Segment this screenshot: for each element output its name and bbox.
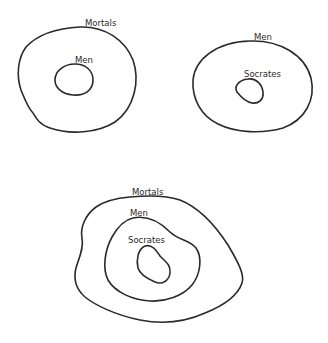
label-mortals: Mortals — [85, 18, 117, 28]
diagram-top-right: Men Socrates — [193, 32, 312, 132]
set-men-outline — [105, 217, 200, 301]
label-socrates: Socrates — [244, 69, 282, 79]
label-men: Men — [75, 55, 93, 65]
set-men-outline — [55, 64, 93, 95]
set-men-outline — [193, 41, 312, 132]
set-mortals-outline — [18, 27, 136, 132]
euler-diagrams: Mortals Men Men Socrates Mortals Men Soc… — [0, 0, 328, 343]
set-socrates-outline — [137, 246, 170, 283]
set-socrates-outline — [236, 79, 263, 103]
label-men: Men — [130, 208, 148, 218]
label-socrates: Socrates — [128, 235, 166, 245]
label-men: Men — [254, 32, 272, 42]
diagram-bottom: Mortals Men Socrates — [75, 187, 243, 322]
label-mortals: Mortals — [132, 187, 164, 197]
diagram-top-left: Mortals Men — [18, 18, 136, 132]
set-mortals-outline — [75, 196, 243, 322]
